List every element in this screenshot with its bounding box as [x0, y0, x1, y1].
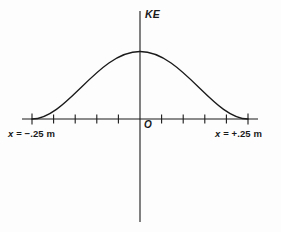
origin-label: O	[144, 119, 152, 130]
y-axis-label-ke: KE	[145, 8, 160, 20]
plot-canvas	[0, 0, 281, 232]
x-endpoint-label-right: x = +.25 m	[215, 128, 262, 139]
x-endpoint-value-right: = +.25 m	[220, 128, 262, 139]
x-endpoint-label-left: x = −.25 m	[8, 128, 55, 139]
kinetic-energy-plot-figure: KE O x = −.25 m x = +.25 m	[0, 0, 281, 232]
x-endpoint-value-left: = −.25 m	[13, 128, 55, 139]
